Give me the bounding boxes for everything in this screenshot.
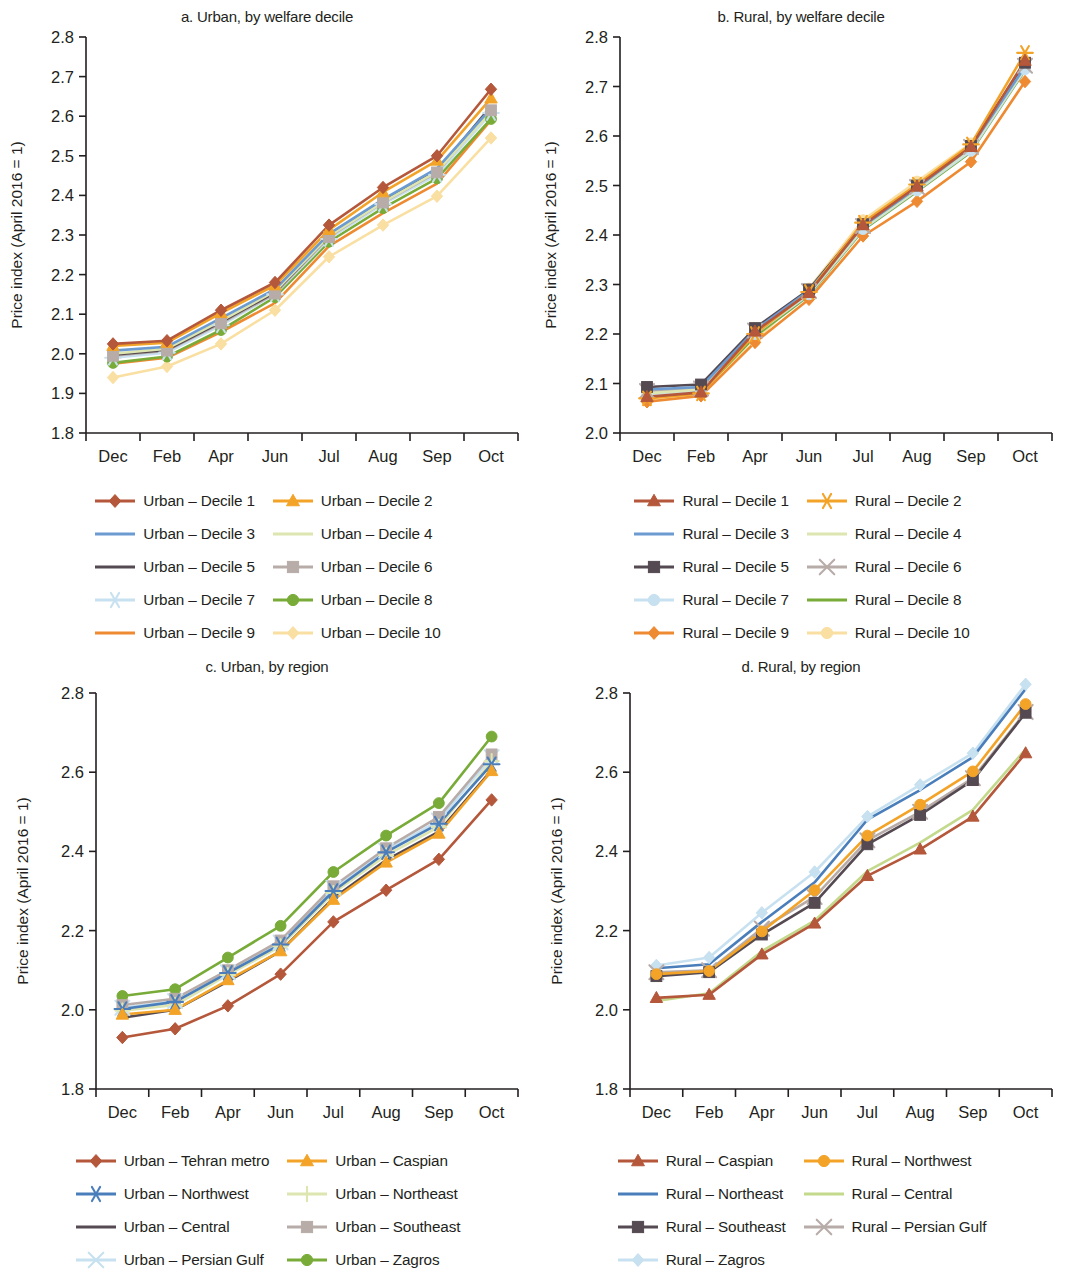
legend-item-label: Rural – Decile 3 (682, 525, 788, 543)
legend-item[interactable]: Rural – Persian Gulf (802, 1211, 987, 1242)
svg-text:Aug: Aug (368, 447, 397, 465)
svg-text:Oct: Oct (478, 447, 504, 465)
legend-item[interactable]: Urban – Tehran metro (74, 1145, 270, 1176)
legend-item[interactable]: Rural – Decile 3 (632, 518, 788, 549)
svg-text:2.8: 2.8 (585, 28, 608, 46)
svg-text:2.0: 2.0 (585, 424, 608, 442)
svg-text:Feb: Feb (687, 447, 715, 465)
legend-item[interactable]: Rural – Decile 4 (805, 518, 970, 549)
legend-swatch (616, 1151, 660, 1171)
svg-text:1.8: 1.8 (61, 1080, 84, 1098)
svg-text:Price index (April 2016 = 1): Price index (April 2016 = 1) (8, 141, 25, 328)
legend-item[interactable]: Rural – Decile 9 (632, 617, 788, 648)
legend-swatch (802, 1184, 846, 1204)
legend-swatch (632, 557, 676, 577)
legend-swatch (93, 590, 137, 610)
svg-text:2.8: 2.8 (595, 684, 618, 702)
svg-text:Aug: Aug (902, 447, 931, 465)
legend-item[interactable]: Urban – Decile 6 (271, 551, 441, 582)
legend-swatch (632, 524, 676, 544)
legend-item[interactable]: Rural – Decile 10 (805, 617, 970, 648)
legend-item-label: Urban – Decile 8 (321, 591, 433, 609)
legend-item[interactable]: Rural – Southeast (616, 1211, 786, 1242)
svg-text:Apr: Apr (742, 447, 768, 465)
legend-item[interactable]: Urban – Decile 9 (93, 617, 255, 648)
svg-text:2.4: 2.4 (51, 186, 74, 204)
legend-item-label: Rural – Zagros (666, 1251, 765, 1269)
legend-item-label: Urban – Decile 6 (321, 558, 433, 576)
legend-swatch (271, 623, 315, 643)
svg-text:2.6: 2.6 (51, 107, 74, 125)
legend-swatch (271, 557, 315, 577)
legend-item-label: Rural – Decile 9 (682, 624, 788, 642)
legend-item-label: Rural – Decile 6 (855, 558, 961, 576)
legend-swatch (93, 557, 137, 577)
legend-swatch (93, 524, 137, 544)
legend-swatch (271, 524, 315, 544)
svg-text:Feb: Feb (153, 447, 181, 465)
legend-item[interactable]: Urban – Decile 1 (93, 485, 255, 516)
legend-item[interactable]: Rural – Decile 6 (805, 551, 970, 582)
svg-text:Sep: Sep (958, 1103, 987, 1121)
legend-item[interactable]: Urban – Decile 4 (271, 518, 441, 549)
legend-item[interactable]: Urban – Persian Gulf (74, 1244, 270, 1270)
legend-item-label: Rural – Decile 7 (682, 591, 788, 609)
legend-item-label: Urban – Central (124, 1218, 230, 1236)
legend-swatch (616, 1217, 660, 1237)
legend-item[interactable]: Urban – Zagros (285, 1244, 460, 1270)
legend-item[interactable]: Rural – Decile 5 (632, 551, 788, 582)
panel-c: c. Urban, by region 1.82.02.22.42.62.8De… (0, 658, 534, 1270)
legend-swatch (74, 1250, 118, 1270)
legend-item[interactable]: Urban – Decile 3 (93, 518, 255, 549)
svg-text:Jun: Jun (267, 1103, 294, 1121)
legend-item[interactable]: Urban – Decile 2 (271, 485, 441, 516)
legend-item-label: Rural – Southeast (666, 1218, 786, 1236)
legend-item[interactable]: Urban – Decile 10 (271, 617, 441, 648)
legend-item[interactable]: Urban – Northwest (74, 1178, 270, 1209)
legend-swatch (74, 1217, 118, 1237)
legend-item[interactable]: Urban – Decile 8 (271, 584, 441, 615)
svg-text:2.0: 2.0 (51, 345, 74, 363)
legend-item-label: Urban – Southeast (335, 1218, 460, 1236)
legend-item[interactable]: Urban – Decile 7 (93, 584, 255, 615)
svg-text:Dec: Dec (632, 447, 661, 465)
legend-item[interactable]: Rural – Decile 2 (805, 485, 970, 516)
svg-text:Apr: Apr (749, 1103, 775, 1121)
svg-text:Dec: Dec (642, 1103, 671, 1121)
legend-item-label: Urban – Decile 5 (143, 558, 255, 576)
legend-item-label: Urban – Decile 4 (321, 525, 433, 543)
legend-item-label: Rural – Northeast (666, 1185, 783, 1203)
legend-item[interactable]: Rural – Decile 1 (632, 485, 788, 516)
legend-item[interactable]: Rural – Zagros (616, 1244, 786, 1270)
legend-item-label: Rural – Decile 2 (855, 492, 961, 510)
panel-b-svg: 2.02.12.22.32.42.52.62.72.8DecFebAprJunJ… (534, 25, 1068, 485)
legend-swatch (285, 1184, 329, 1204)
svg-text:Sep: Sep (424, 1103, 453, 1121)
legend-swatch (93, 623, 137, 643)
legend-item[interactable]: Rural – Caspian (616, 1145, 786, 1176)
svg-text:2.4: 2.4 (61, 842, 84, 860)
legend-item-label: Urban – Persian Gulf (124, 1251, 264, 1269)
legend-item[interactable]: Rural – Northeast (616, 1178, 786, 1209)
svg-text:Dec: Dec (108, 1103, 137, 1121)
svg-text:Oct: Oct (1013, 1103, 1039, 1121)
legend-item[interactable]: Rural – Central (802, 1178, 987, 1209)
svg-text:1.8: 1.8 (595, 1080, 618, 1098)
legend-item-label: Rural – Decile 5 (682, 558, 788, 576)
legend-item[interactable]: Urban – Southeast (285, 1211, 460, 1242)
legend-item[interactable]: Urban – Caspian (285, 1145, 460, 1176)
legend-swatch (271, 590, 315, 610)
legend-item[interactable]: Rural – Decile 8 (805, 584, 970, 615)
legend-item-label: Urban – Decile 10 (321, 624, 441, 642)
legend-item[interactable]: Rural – Decile 7 (632, 584, 788, 615)
legend-item[interactable]: Rural – Northwest (802, 1145, 987, 1176)
legend-swatch (805, 590, 849, 610)
legend-swatch (805, 524, 849, 544)
legend-item[interactable]: Urban – Northeast (285, 1178, 460, 1209)
svg-text:Feb: Feb (161, 1103, 189, 1121)
legend-item[interactable]: Urban – Decile 5 (93, 551, 255, 582)
svg-text:2.2: 2.2 (61, 922, 84, 940)
legend-item[interactable]: Urban – Central (74, 1211, 270, 1242)
legend-swatch (805, 557, 849, 577)
svg-text:Sep: Sep (956, 447, 985, 465)
